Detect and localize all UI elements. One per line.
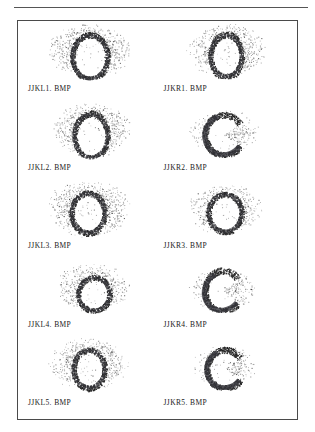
image-caption: JJKR1. BMP xyxy=(162,84,290,94)
image-panel: JJKL5. BMP xyxy=(22,338,158,417)
speckle-image-canvas xyxy=(179,260,271,320)
sample-image xyxy=(26,338,154,398)
figure-frame: JJKL1. BMPJJKR1. BMPJJKL2. BMPJJKR2. BMP… xyxy=(17,20,298,420)
sample-image xyxy=(162,181,290,241)
speckle-image-canvas xyxy=(179,338,271,398)
image-caption: JJKL5. BMP xyxy=(26,398,154,408)
speckle-image-canvas xyxy=(44,103,136,163)
image-panel: JJKR1. BMP xyxy=(158,24,294,103)
image-panel: JJKR3. BMP xyxy=(158,181,294,260)
image-panel: JJKL2. BMP xyxy=(22,103,158,182)
speckle-image-canvas xyxy=(179,181,271,241)
image-caption: JJKR5. BMP xyxy=(162,398,290,408)
image-panel: JJKL1. BMP xyxy=(22,24,158,103)
sample-image xyxy=(26,260,154,320)
image-caption: JJKR3. BMP xyxy=(162,241,290,251)
image-panel: JJKR2. BMP xyxy=(158,103,294,182)
image-caption: JJKL3. BMP xyxy=(26,241,154,251)
speckle-image-canvas xyxy=(44,181,136,241)
sample-image xyxy=(26,181,154,241)
image-grid: JJKL1. BMPJJKR1. BMPJJKL2. BMPJJKR2. BMP… xyxy=(18,21,297,419)
sample-image xyxy=(162,103,290,163)
speckle-image-canvas xyxy=(44,260,136,320)
image-caption: JJKR4. BMP xyxy=(162,320,290,330)
speckle-image-canvas xyxy=(179,103,271,163)
image-caption: JJKL2. BMP xyxy=(26,163,154,173)
sample-image xyxy=(162,260,290,320)
speckle-image-canvas xyxy=(44,24,136,84)
top-horizontal-rule xyxy=(14,7,308,8)
image-caption: JJKL4. BMP xyxy=(26,320,154,330)
image-caption: JJKL1. BMP xyxy=(26,84,154,94)
image-panel: JJKL4. BMP xyxy=(22,260,158,339)
sample-image xyxy=(162,24,290,84)
image-caption: JJKR2. BMP xyxy=(162,163,290,173)
sample-image xyxy=(26,24,154,84)
speckle-image-canvas xyxy=(44,338,136,398)
image-panel: JJKR5. BMP xyxy=(158,338,294,417)
image-panel: JJKR4. BMP xyxy=(158,260,294,339)
sample-image xyxy=(26,103,154,163)
image-panel: JJKL3. BMP xyxy=(22,181,158,260)
speckle-image-canvas xyxy=(179,24,271,84)
sample-image xyxy=(162,338,290,398)
